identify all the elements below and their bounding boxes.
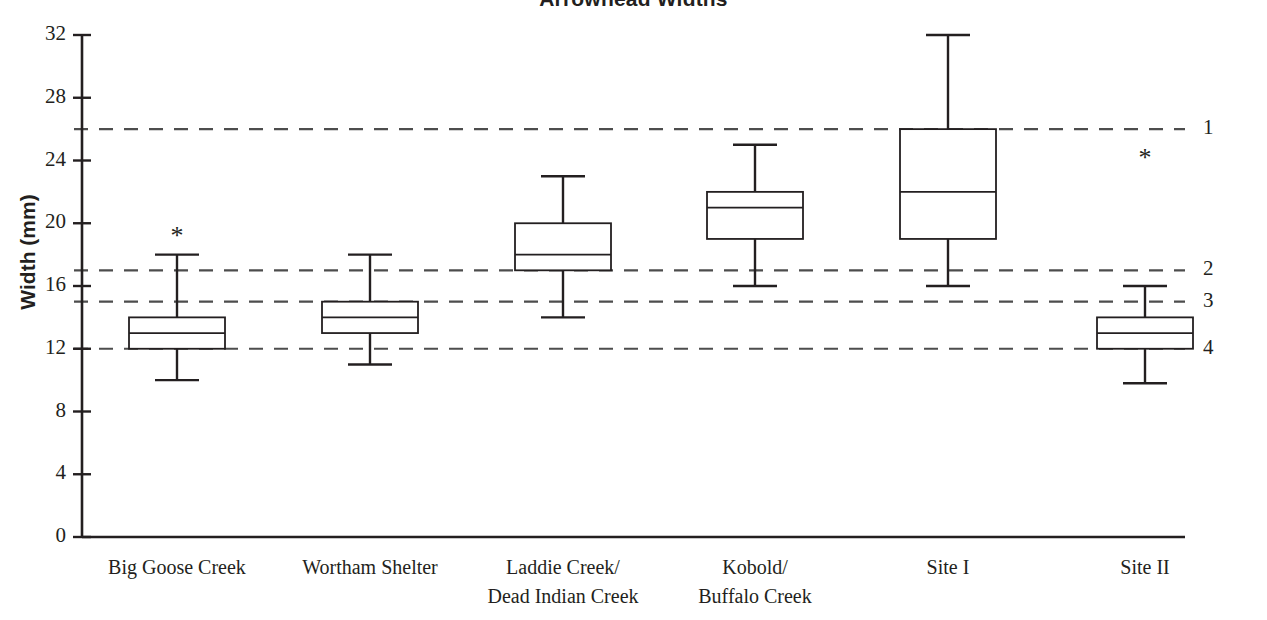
box-iqr (900, 129, 996, 239)
box-plot-3 (515, 176, 611, 317)
y-tick-label-32: 32 (26, 21, 66, 46)
axes-group (73, 35, 1185, 537)
reference-line-label-2: 2 (1203, 256, 1227, 281)
reference-lines-group (74, 129, 1185, 349)
asterisk-marker-1: * (165, 223, 189, 249)
box-plot-chart: Arrowhead Widths Width (mm) 048121620242… (0, 0, 1267, 620)
y-tick-label-12: 12 (26, 335, 66, 360)
y-tick-label-28: 28 (26, 84, 66, 109)
y-tick-label-20: 20 (26, 209, 66, 234)
x-category-label-line: Site I (833, 553, 1063, 582)
box-iqr (515, 223, 611, 270)
y-tick-label-24: 24 (26, 147, 66, 172)
x-category-label-5: Site I (833, 553, 1063, 582)
y-tick-label-4: 4 (26, 460, 66, 485)
y-tick-label-16: 16 (26, 272, 66, 297)
box-plot-5 (900, 35, 996, 286)
y-tick-label-8: 8 (26, 398, 66, 423)
plot-canvas (0, 0, 1267, 620)
reference-line-label-3: 3 (1203, 288, 1227, 313)
box-plot-4 (707, 145, 803, 286)
box-plot-1 (129, 255, 225, 381)
x-category-label-line: Buffalo Creek (640, 582, 870, 611)
x-category-label-line: Site II (1030, 553, 1260, 582)
asterisk-marker-2: * (1133, 145, 1157, 171)
reference-line-label-4: 4 (1203, 335, 1227, 360)
reference-line-label-1: 1 (1203, 115, 1227, 140)
x-category-label-6: Site II (1030, 553, 1260, 582)
boxes-group (129, 35, 1193, 383)
box-iqr (707, 192, 803, 239)
y-tick-label-0: 0 (26, 523, 66, 548)
